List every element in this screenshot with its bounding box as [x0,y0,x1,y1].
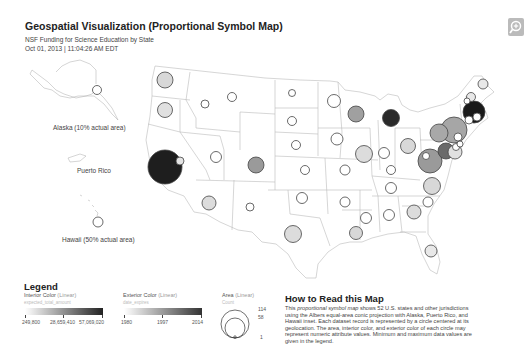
symbol-wv[interactable] [423,153,430,160]
symbol-vt[interactable] [464,98,470,104]
symbol-sd[interactable] [288,117,297,126]
us-map [0,0,521,290]
symbol-ak[interactable] [93,86,102,95]
symbol-ok[interactable] [297,193,308,204]
area-tick-mid: 58 [258,314,264,320]
symbol-in[interactable] [379,148,390,159]
symbol-co[interactable] [248,157,264,173]
state-boundaries [146,66,494,278]
howto-title: How to Read this Map [285,293,384,304]
symbol-sc[interactable] [423,197,433,207]
symbol-nm[interactable] [246,203,254,211]
hawaii-outline [80,195,98,216]
interior-tick-mid: 28,659,410 [50,319,75,325]
interior-color-gradient [25,308,103,315]
symbol-az[interactable] [202,196,216,210]
symbol-ca[interactable] [148,150,182,184]
area-tick-max: 114 [258,306,266,312]
area-tick-min: 1 [260,334,263,340]
symbol-tn[interactable] [386,183,397,194]
symbol-id[interactable] [201,100,209,108]
exterior-color-legend-header: Exterior Color (Linear) [123,292,177,298]
symbol-mo[interactable] [340,165,350,175]
interior-color-legend-header: Interior Color (Linear) [24,292,76,298]
puerto-rico-label: Puerto Rico [77,167,111,174]
symbol-nd[interactable] [289,90,296,97]
interior-tick-min: 249,800 [22,319,40,325]
symbol-fl[interactable] [425,245,437,257]
symbol-mn[interactable] [328,95,341,108]
howto-body: This proportional symbol map shows 52 U.… [285,305,480,345]
symbol-me[interactable] [478,79,488,89]
symbol-oh[interactable] [401,139,416,154]
symbol-ne[interactable] [292,141,301,150]
symbol-ny2[interactable] [454,133,462,141]
alaska-outline [30,60,118,120]
symbol-ut[interactable] [211,152,222,163]
symbol-hi[interactable] [93,217,103,227]
symbol-ms[interactable] [361,213,372,224]
symbol-tx[interactable] [285,226,302,243]
exterior-tick-mid: 1997 [157,319,168,325]
symbol-wi[interactable] [348,106,364,122]
symbol-la[interactable] [350,227,363,240]
area-legend-circles [218,305,258,341]
symbol-wa[interactable] [157,72,173,88]
symbol-ky[interactable] [387,166,396,175]
symbol-ri[interactable] [473,113,481,121]
hawaii-label: Hawaii (50% actual area) [62,236,135,243]
symbol-ia[interactable] [331,133,343,145]
interior-tick-max: 57,069,020 [79,319,104,325]
exterior-tick-max: 2014 [192,319,203,325]
exterior-field-label: date_expires [123,300,149,305]
exterior-color-gradient [124,308,202,315]
symbol-nv[interactable] [176,157,184,165]
legend-title: Legend [24,281,58,292]
interior-field-label: expected_total_amount [24,300,71,305]
symbol-mt[interactable] [228,93,237,102]
symbol-il[interactable] [356,146,373,163]
symbol-ar[interactable] [340,197,350,207]
symbol-ct[interactable] [465,116,473,124]
exterior-tick-min: 1980 [121,319,132,325]
symbol-al[interactable] [384,210,395,221]
symbol-pa[interactable] [430,124,448,142]
alaska-label: Alaska (10% actual area) [53,124,126,131]
symbol-nj[interactable] [457,141,463,147]
puerto-rico-outline [68,154,86,162]
symbol-nc[interactable] [424,178,441,195]
area-legend-header: Area (Linear) [222,292,254,298]
symbol-ks[interactable] [301,166,310,175]
symbol-ga[interactable] [407,205,421,219]
symbol-mi[interactable] [383,110,400,127]
symbol-or[interactable] [158,103,173,118]
